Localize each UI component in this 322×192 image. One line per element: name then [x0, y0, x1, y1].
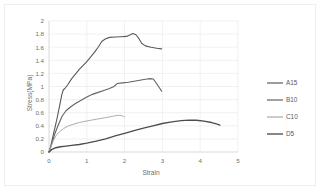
y-tick-label: 0.4 — [35, 122, 44, 129]
x-tick-label: 2 — [123, 157, 127, 164]
y-axis-tick-labels: 00.20.40.60.811.21.41.61.82 — [35, 17, 44, 155]
legend-label-d5: D5 — [286, 130, 295, 137]
x-tick-label: 5 — [236, 157, 240, 164]
x-tick-label: 0 — [47, 157, 51, 164]
y-tick-label: 0.8 — [35, 96, 44, 103]
y-tick-label: 2 — [41, 17, 45, 24]
series-lines — [49, 33, 220, 152]
x-axis-title: Strain — [142, 169, 160, 176]
chart-container: 00.20.40.60.811.21.41.61.82 012345 Stres… — [4, 4, 316, 186]
x-axis-tick-labels: 012345 — [47, 157, 240, 164]
x-tick-label: 1 — [85, 157, 89, 164]
chart-legend: A15B10C10D5 — [267, 79, 298, 137]
y-tick-label: 0.2 — [35, 135, 44, 142]
y-tick-label: 1.6 — [35, 44, 44, 51]
y-tick-label: 1.8 — [35, 30, 44, 37]
y-tick-label: 0 — [41, 148, 45, 155]
y-tick-label: 1 — [41, 83, 45, 90]
series-line-b10 — [49, 79, 162, 152]
y-tick-label: 1.2 — [35, 70, 44, 77]
y-axis-title: Stress(MPa) — [26, 75, 34, 112]
y-tick-label: 0.6 — [35, 109, 44, 116]
series-line-a15 — [49, 33, 162, 152]
series-line-d5 — [49, 120, 220, 152]
gridlines — [49, 21, 238, 152]
x-tick-label: 4 — [198, 157, 202, 164]
legend-label-c10: C10 — [286, 113, 298, 120]
legend-label-a15: A15 — [286, 79, 298, 86]
stress-strain-chart: 00.20.40.60.811.21.41.61.82 012345 Stres… — [5, 5, 317, 187]
y-tick-label: 1.4 — [35, 57, 44, 64]
legend-label-b10: B10 — [286, 96, 298, 103]
x-tick-label: 3 — [161, 157, 165, 164]
